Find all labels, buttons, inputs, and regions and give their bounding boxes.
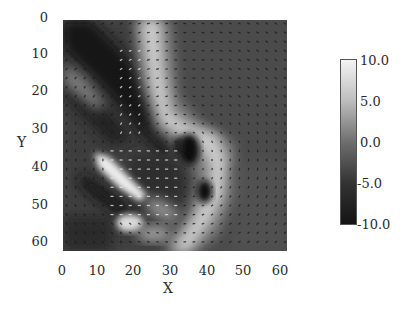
x-tick-10: 10 xyxy=(89,264,106,277)
x-tick-50: 50 xyxy=(235,264,252,277)
colorbar-tick-neg5: -5.0 xyxy=(357,177,382,190)
y-tick-40: 40 xyxy=(18,160,48,173)
heatmap-plot xyxy=(63,20,287,251)
y-tick-0: 0 xyxy=(18,11,48,24)
colorbar-tick-max: 10.0 xyxy=(360,54,389,67)
y-tick-10: 10 xyxy=(18,47,48,60)
x-axis-label: X xyxy=(163,280,173,296)
colorbar-tick-0: 0.0 xyxy=(360,136,381,149)
y-tick-20: 20 xyxy=(18,84,48,97)
x-tick-20: 20 xyxy=(125,264,142,277)
x-tick-0: 0 xyxy=(58,264,66,277)
colorbar-tick-min: -10.0 xyxy=(357,218,390,231)
x-tick-30: 30 xyxy=(162,264,179,277)
x-tick-60: 60 xyxy=(272,264,289,277)
x-tick-40: 40 xyxy=(199,264,216,277)
y-tick-60: 60 xyxy=(18,235,48,248)
colorbar xyxy=(340,59,357,225)
y-tick-50: 50 xyxy=(18,198,48,211)
y-tick-30: 30 xyxy=(18,122,48,135)
y-axis-label: Y xyxy=(17,134,26,150)
colorbar-tick-5: 5.0 xyxy=(360,95,381,108)
